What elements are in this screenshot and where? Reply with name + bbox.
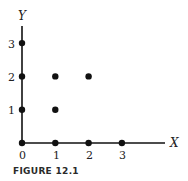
data-points — [19, 40, 125, 146]
data-point — [52, 107, 58, 113]
data-point — [119, 140, 125, 146]
x-tick-2: 2 — [86, 149, 93, 162]
x-axis-label: X — [169, 136, 179, 150]
data-point — [85, 73, 91, 79]
data-point — [19, 73, 25, 79]
y-tick-3: 3 — [8, 38, 15, 51]
data-point — [19, 40, 25, 46]
scatter-plot: Y X 0 1 2 3 1 2 3 — [0, 0, 188, 181]
figure-caption: FIGURE 12.1 — [13, 166, 79, 176]
y-tick-1: 1 — [8, 104, 15, 117]
data-point — [85, 140, 91, 146]
data-point — [19, 107, 25, 113]
x-tick-0: 0 — [19, 149, 26, 162]
x-tick-1: 1 — [53, 149, 60, 162]
data-point — [52, 73, 58, 79]
x-tick-3: 3 — [119, 149, 126, 162]
data-point — [52, 140, 58, 146]
data-point — [19, 140, 25, 146]
y-tick-2: 2 — [8, 71, 15, 84]
y-axis-label: Y — [18, 9, 27, 23]
